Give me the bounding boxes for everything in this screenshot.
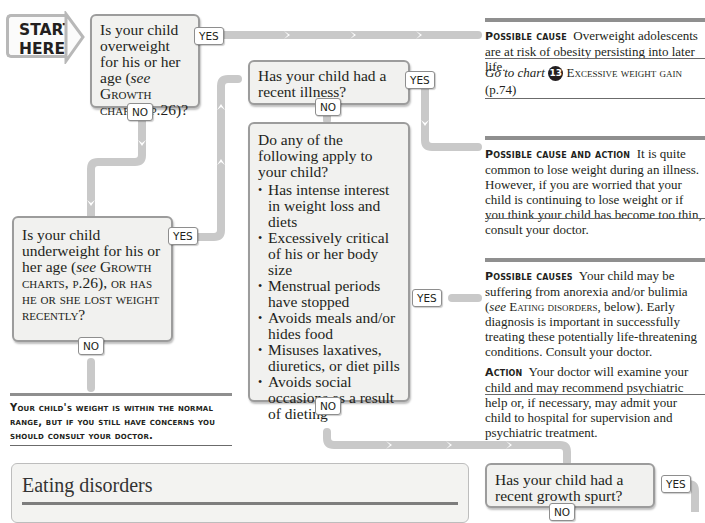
panel3-see: see	[489, 299, 506, 314]
q3-item: Has intense interest in weight loss and …	[258, 182, 400, 230]
eating-disorders-section: Eating disorders	[11, 463, 469, 523]
q2-no-tag[interactable]: NO	[315, 98, 341, 116]
q4-see: see	[76, 258, 96, 275]
question-eating-behaviours: Do any of the following apply to your ch…	[248, 122, 410, 402]
panel-illness-cause-action: Possible cause and action It is quite co…	[485, 146, 705, 237]
q5-no-tag[interactable]: NO	[549, 503, 575, 521]
q1-see: see	[131, 69, 151, 86]
q3-item: Avoids meals and/or hides food	[258, 310, 400, 342]
goto-chart-link[interactable]: Go to chart 13 Excessive weight gain (p.…	[485, 64, 705, 98]
q1-yes-tag[interactable]: YES	[194, 27, 224, 45]
q4-no-tag[interactable]: NO	[78, 337, 104, 355]
panel1-bottom-rule	[485, 98, 705, 99]
panel3-ref: Eating disorders	[506, 299, 597, 314]
panel1-label: Possible cause	[485, 30, 567, 43]
q3-item: Excessively critical of his or her body …	[258, 230, 400, 278]
panel1-top-rule	[485, 18, 705, 22]
panel1-divider	[485, 58, 705, 59]
panel3-action: Action Your doctor will examine your chi…	[485, 364, 705, 440]
panel3-action-label: Action	[485, 366, 523, 379]
eating-disorders-rule	[22, 502, 458, 505]
q3-symptom-list: Has intense interest in weight loss and …	[258, 182, 400, 422]
q3-intro: Do any of the following apply to your ch…	[258, 132, 400, 180]
panel2-bottom-rule	[485, 218, 705, 219]
q3-item: Misuses laxatives, diuretics, or diet pi…	[258, 342, 400, 374]
q3-item: Menstrual periods have stopped	[258, 278, 400, 310]
question-overweight: Is your child overweight for his or her …	[90, 14, 200, 108]
goto-title: Excessive weight gain	[566, 65, 681, 80]
panel3-causes-label: Possible causes	[485, 270, 573, 283]
q3-yes-tag[interactable]: YES	[412, 289, 442, 307]
panel3-bottom-rule	[485, 394, 705, 395]
q2-yes-tag[interactable]: YES	[405, 71, 435, 89]
panel2-label: Possible cause and action	[485, 148, 630, 161]
q2-text: Has your child had a recent illness?	[258, 67, 386, 100]
question-growth-spurt: Has your child had a recent growth spurt…	[485, 463, 655, 508]
q5-text: Has your child had a recent growth spurt…	[495, 471, 623, 504]
q1-no-tag[interactable]: NO	[127, 103, 153, 121]
goto-page: (p.74)	[485, 82, 516, 97]
panel2-top-rule	[485, 136, 705, 140]
chart-number-badge: 13	[548, 66, 563, 81]
panel3-top-rule	[485, 258, 705, 262]
q5-yes-tag[interactable]: YES	[661, 475, 691, 493]
normal-note-top-rule	[10, 393, 232, 396]
goto-prefix: Go to chart	[485, 65, 545, 80]
question-underweight: Is your child underweight for his or her…	[12, 216, 173, 342]
q4-yes-tag[interactable]: YES	[168, 227, 198, 245]
normal-note-bottom-rule	[10, 445, 232, 446]
normal-weight-note: Your child's weight is within the normal…	[10, 401, 240, 443]
q3-no-tag[interactable]: NO	[315, 397, 341, 415]
eating-disorders-title: Eating disorders	[22, 474, 153, 496]
panel-eating-disorder-causes: Possible causes Your child may be suffer…	[485, 268, 705, 440]
